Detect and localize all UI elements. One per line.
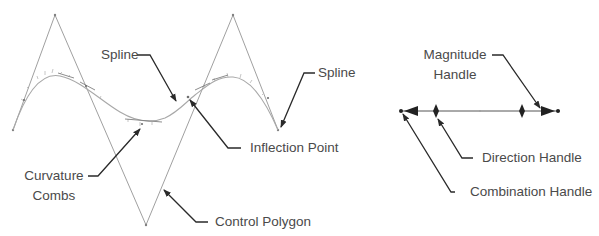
direction-diamond-right — [519, 104, 525, 118]
handle-midpoint — [479, 110, 481, 112]
label-direction-handle: Direction Handle — [482, 150, 582, 166]
label-curvature-line1: Curvature — [22, 168, 86, 184]
spline-points — [23, 85, 269, 125]
inflection-point-leader — [190, 100, 241, 148]
handle-end-right — [556, 109, 560, 113]
direction-diamond-left — [433, 104, 439, 118]
label-control-polygon: Control Polygon — [215, 214, 311, 230]
label-magnitude-handle: Magnitude Handle — [420, 47, 490, 83]
spline-top-leader — [137, 55, 176, 101]
label-combs-line2: Combs — [22, 188, 86, 204]
handle-assembly — [399, 104, 560, 118]
spline-curve — [13, 76, 278, 130]
label-combination-handle: Combination Handle — [470, 184, 592, 200]
magnitude-handle-leader — [492, 55, 540, 108]
curvature-combs-leader — [88, 129, 140, 176]
direction-handle-leader — [438, 119, 473, 158]
label-inflection-point: Inflection Point — [250, 140, 339, 156]
label-spline-right: Spline — [318, 65, 356, 81]
label-spline-top: Spline — [101, 47, 139, 63]
combination-handle-leader — [403, 114, 455, 192]
magnitude-arrow-right — [541, 106, 555, 116]
spline-right-leader — [281, 73, 315, 127]
magnitude-arrow-left — [404, 106, 418, 116]
label-magnitude-line1: Magnitude — [420, 47, 490, 63]
handle-end-left — [399, 109, 403, 113]
leader-lines-left — [88, 55, 315, 222]
control-polygon-leader — [164, 190, 208, 222]
label-handle-line2: Handle — [420, 67, 490, 83]
spline-diagram — [0, 0, 599, 236]
label-curvature-combs: Curvature Combs — [22, 168, 86, 204]
